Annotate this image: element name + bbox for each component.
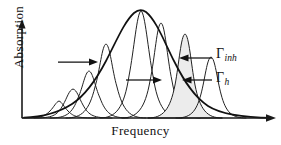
inh-arrow-left-head	[89, 59, 98, 66]
sub-peak-3	[50, 71, 128, 118]
sub-peak-6-shaded	[148, 34, 222, 118]
absorption-spectrum-figure: Γinh Γh Frequency Absorption	[0, 0, 281, 145]
sub-peak-1	[22, 101, 96, 118]
x-axis-label: Frequency	[0, 123, 281, 139]
sub-peak-4	[66, 44, 146, 118]
gamma-h-subscript: h	[225, 77, 230, 87]
inhomogeneous-envelope-curve	[24, 10, 272, 118]
right-arrow-icon	[266, 114, 276, 121]
homogeneous-packets-group	[22, 11, 246, 118]
h-arrow-left-head	[153, 77, 162, 84]
gamma-symbol-inh: Γ	[216, 46, 224, 61]
gamma-symbol-h: Γ	[216, 70, 224, 85]
gamma-h-label: Γh	[216, 70, 229, 86]
y-axis-label: Absorption	[11, 0, 29, 85]
gamma-inh-label: Γinh	[216, 46, 236, 62]
h-annotation-arrows	[126, 76, 212, 83]
axes-group	[18, 19, 276, 122]
gamma-inh-subscript: inh	[225, 53, 237, 63]
